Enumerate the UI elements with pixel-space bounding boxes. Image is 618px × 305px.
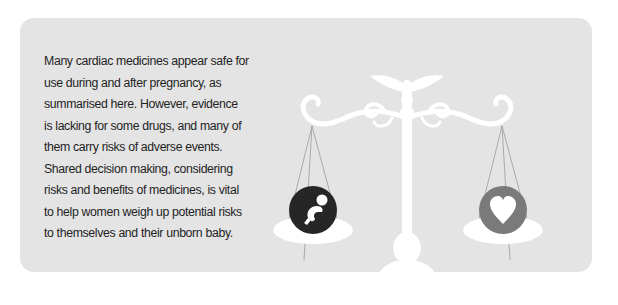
right-scale-pan <box>463 186 543 244</box>
scale-column <box>375 88 439 288</box>
left-scale-pan <box>273 186 353 244</box>
info-panel: Many cardiac medicines appear safe for u… <box>20 18 592 272</box>
balance-scale-illustration <box>270 48 590 288</box>
summary-text: Many cardiac medicines appear safe for u… <box>44 51 249 245</box>
